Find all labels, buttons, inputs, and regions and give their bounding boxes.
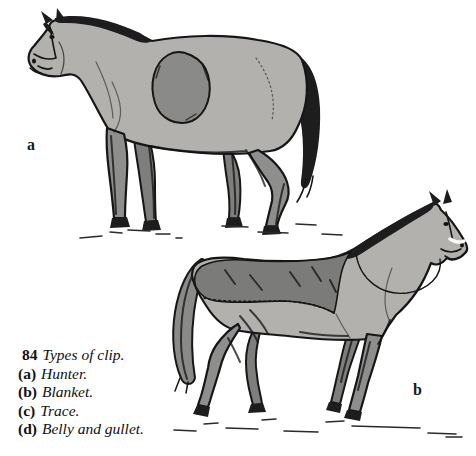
item-label-c: Trace.	[40, 402, 79, 419]
figure-title: Types of clip.	[43, 346, 125, 363]
horse-a-belly-shading	[150, 146, 265, 186]
horse-a-saddle-patch	[153, 52, 210, 123]
label-horse-b: b	[413, 382, 422, 398]
item-key-b: (b)	[18, 383, 42, 400]
figure-caption: 84Types of clip. (a)Hunter. (b)Blanket. …	[18, 346, 198, 439]
horse-a-nostril	[32, 58, 36, 63]
caption-item-b: (b)Blanket.	[18, 383, 198, 402]
horse-b-far-legs	[246, 330, 362, 413]
ground-strokes-b	[174, 419, 462, 437]
horse-b-eye	[443, 222, 448, 226]
item-key-c: (c)	[18, 402, 40, 419]
item-key-d: (d)	[18, 420, 42, 437]
caption-item-d: (d)Belly and gullet.	[18, 420, 198, 439]
figure-number: 84	[22, 346, 43, 363]
book-figure-page: a b 84Types of clip. (a)Hunter. (b)Blank…	[0, 0, 476, 456]
caption-title-line: 84Types of clip.	[18, 346, 198, 365]
item-key-a: (a)	[18, 365, 41, 382]
caption-item-a: (a)Hunter.	[18, 365, 198, 384]
horse-a-illustration	[29, 8, 342, 238]
item-label-a: Hunter.	[41, 365, 87, 382]
horse-b-illustration	[173, 189, 467, 437]
item-label-d: Belly and gullet.	[42, 420, 144, 437]
caption-item-c: (c)Trace.	[18, 402, 198, 421]
label-horse-a: a	[27, 137, 35, 153]
item-label-b: Blanket.	[42, 383, 93, 400]
